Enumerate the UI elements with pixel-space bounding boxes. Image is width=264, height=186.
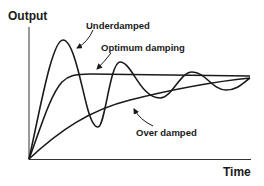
underdamped-arrow — [77, 30, 93, 48]
underdamped-curve — [29, 40, 250, 159]
overdamped-label: Over damped — [136, 128, 197, 138]
overdamped-curve — [29, 78, 250, 159]
overdamped-arrow — [134, 109, 153, 126]
underdamped-label: Underdamped — [86, 21, 150, 31]
optimum-arrow — [97, 53, 111, 69]
x-axis-label: Time — [223, 166, 251, 178]
optimum-damping-label: Optimum damping — [101, 43, 185, 53]
y-axis-label: Output — [8, 10, 47, 22]
